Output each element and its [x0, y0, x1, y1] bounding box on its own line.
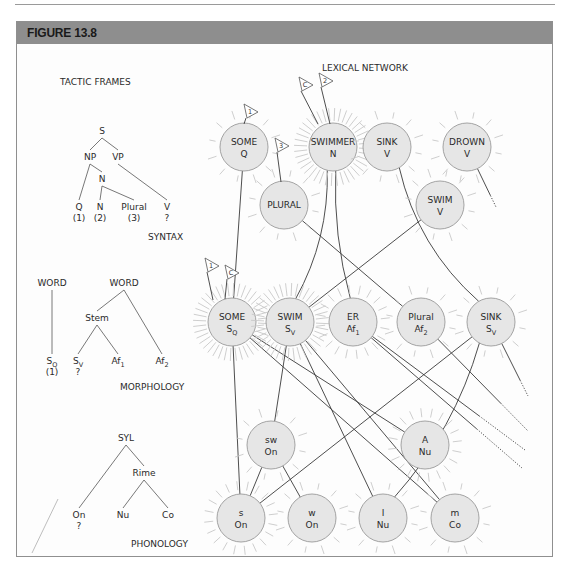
connection-er_af1-offscreen	[371, 338, 477, 429]
node-circle	[309, 123, 357, 171]
syntax-tree: SNPVPNQ(1)N(2)Plural(3)V?	[73, 126, 171, 223]
phonology-node-nu: Nu	[117, 510, 129, 520]
node-label-top: SWIM	[277, 312, 302, 322]
syntax-branch	[100, 186, 102, 200]
connection-dotted-tail	[479, 416, 525, 450]
syntax-note: (2)	[94, 213, 107, 223]
lexical-node-er-af1: ERAf1	[316, 285, 390, 359]
connection-some_q-some_sq	[234, 171, 243, 298]
lexical-node-a-nu: ANu	[388, 408, 462, 482]
syntax-node-vp: VP	[112, 152, 124, 162]
node-label-top: SOME	[219, 312, 246, 322]
connection-er_af1-offscreen	[372, 336, 479, 416]
svg-text:3: 3	[279, 142, 283, 150]
lexical-network-label: LEXICAL NETWORK	[322, 63, 409, 73]
connection-dotted-tail	[520, 380, 528, 396]
lexical-node-swimmer-n: SWIMMERN	[294, 108, 372, 186]
svg-text:1: 1	[248, 108, 252, 116]
svg-text:2: 2	[323, 77, 327, 85]
morphology-node-w1: WORD	[37, 278, 66, 288]
phonology-note: ?	[77, 521, 82, 531]
node-label-top: SWIMMER	[311, 137, 356, 147]
connection-plural-plural_af2	[302, 221, 402, 307]
syntax-branch	[118, 164, 167, 200]
node-label-top: SWIM	[427, 195, 452, 205]
syntax-node-plural: Plural	[121, 202, 146, 212]
node-label-bottom: On	[265, 447, 278, 457]
node-circle	[329, 298, 377, 346]
morphology-node-w2: WORD	[109, 278, 138, 288]
connection-swim_sv-sw_on	[275, 346, 287, 422]
morphology-note: (1)	[46, 367, 59, 377]
syntax-node-n2: N	[97, 202, 104, 212]
node-label-top: I	[382, 508, 385, 518]
phonology-node-rime: Rime	[132, 468, 156, 478]
node-label-bottom: V	[464, 149, 471, 159]
connection-dotted-tail	[490, 195, 496, 207]
syntax-node-v: V	[164, 202, 171, 212]
flag-icon-c: C	[299, 77, 318, 124]
connection-some_sq-m_co	[250, 338, 437, 502]
lexical-node-m-co: mCo	[419, 482, 491, 554]
connection-dotted-tail	[501, 403, 528, 431]
node-label-bottom: N	[330, 149, 337, 159]
node-label-bottom: Q	[240, 149, 247, 159]
connection-plural_af2-offscreen	[438, 339, 501, 403]
syntax-node-n1: N	[99, 174, 106, 184]
syntax-branch	[79, 164, 90, 200]
lexical-node-some-q: SOMEQ	[208, 111, 280, 183]
syntax-note: (1)	[73, 213, 86, 223]
lexical-node-s-on: sOn	[204, 481, 278, 555]
connection-swim_v-swim_sv	[309, 220, 421, 307]
phonology-label: PHONOLOGY	[131, 539, 188, 549]
node-circle	[397, 298, 445, 346]
flag-icon-3: 3	[275, 138, 289, 182]
node-label-top: Plural	[408, 312, 433, 322]
morphology-branch	[97, 325, 118, 354]
node-label-top: PLURAL	[267, 200, 301, 210]
phonology-branch	[79, 445, 126, 508]
syntax-branch	[102, 138, 118, 150]
morphology-node-stem: Stem	[85, 313, 109, 323]
node-circle	[266, 298, 314, 346]
lexical-node-i-nu: INu	[347, 482, 419, 554]
flag-icon-1: 1	[244, 104, 258, 124]
syntax-branch	[102, 186, 134, 200]
svg-text:1: 1	[209, 262, 213, 270]
morphology-branch	[78, 325, 97, 354]
connection-some_sq-s_on	[233, 346, 240, 494]
connection-dotted-tail	[477, 429, 522, 468]
lexical-node-w-on: wOn	[276, 482, 348, 554]
node-circle	[288, 494, 336, 542]
lexical-node-drown-v: DROWNV	[431, 111, 503, 183]
phonology-node-on: On	[73, 510, 86, 520]
node-circle	[220, 123, 268, 171]
syntax-node-np: NP	[84, 152, 97, 162]
tactic-frames-label: TACTIC FRAMES	[59, 77, 131, 87]
node-label-top: SINK	[480, 312, 502, 322]
node-circle	[431, 494, 479, 542]
phonology-tree: SYLRimeOn?NuCo	[73, 433, 175, 531]
node-label-top: s	[239, 508, 244, 518]
lexical-node-sink-sv: SINKSV	[455, 286, 527, 358]
connection-sw_on-w_on	[283, 466, 300, 497]
morphology-node-af1: Af1	[111, 356, 124, 369]
node-label-top: sw	[265, 435, 277, 445]
lexical-node-sw-on: swOn	[235, 409, 307, 481]
phonology-branch	[123, 480, 144, 508]
stray-scan-line	[32, 499, 58, 553]
syntax-note: (3)	[128, 213, 141, 223]
node-label-top: DROWN	[449, 137, 485, 147]
node-circle	[208, 298, 256, 346]
node-circle	[217, 494, 265, 542]
diagram-canvas: SNPVPNQ(1)N(2)Plural(3)V?WORDWORDStemSQ(…	[0, 0, 570, 585]
node-label-top: w	[308, 508, 315, 518]
morphology-node-af2: Af2	[155, 356, 168, 369]
syntax-node-s: S	[99, 126, 105, 136]
flag-icon-2: 2	[319, 73, 333, 124]
node-label-bottom: Nu	[419, 447, 431, 457]
syntax-branch	[90, 138, 102, 150]
node-label-bottom: V	[384, 149, 391, 159]
node-circle	[359, 494, 407, 542]
lexical-node-some-sq: SOMESQ	[193, 283, 271, 361]
